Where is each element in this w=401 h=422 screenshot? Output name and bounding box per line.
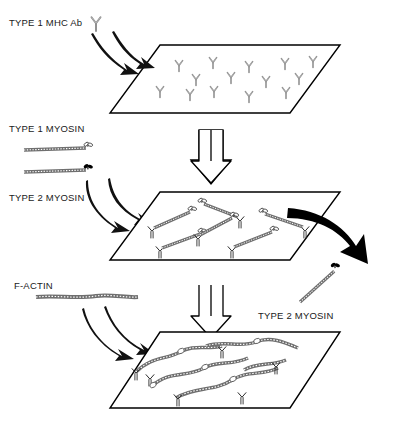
- label-mhc-antibody: TYPE 1 MHC Ab: [9, 18, 82, 28]
- label-myosin-type-1: TYPE 1 MYOSIN: [9, 124, 84, 134]
- label-f-actin: F-ACTIN: [14, 281, 53, 291]
- myosin-solid-head-icon: [24, 163, 93, 172]
- diagram-canvas: TYPE 1 MHC Ab TYPE 1 MYOSIN TYPE 2 MYOSI…: [0, 0, 401, 422]
- myosin-solid-head-extracted-icon: [294, 257, 344, 304]
- curved-arrow-icon: [91, 31, 155, 75]
- label-myosin-type-2: TYPE 2 MYOSIN: [9, 193, 84, 203]
- actin-filament-icon: [36, 295, 138, 297]
- antibody-y-icon: [92, 17, 101, 31]
- diagram-vector-layer: [0, 0, 401, 422]
- block-arrow-down-icon: [191, 130, 231, 184]
- block-arrow-down-icon: [191, 285, 231, 338]
- plane-myosin-bound: [110, 192, 340, 260]
- myosin-open-head-icon: [24, 141, 93, 150]
- label-myosin-type-2-extracted: TYPE 2 MYOSIN: [258, 311, 333, 321]
- plane-antibody-coated: [110, 45, 340, 113]
- curved-arrow-icon: [82, 306, 155, 361]
- plane-actin-decorated: [110, 332, 340, 408]
